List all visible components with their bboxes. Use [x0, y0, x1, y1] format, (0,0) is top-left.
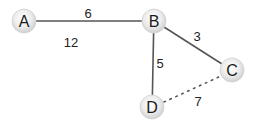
- node-b-label: B: [149, 13, 160, 30]
- weight-label-b-c: 3: [193, 29, 200, 44]
- weight-label-b-d: 5: [156, 56, 163, 71]
- edge-b-d: [152, 33, 153, 95]
- node-a-label: A: [19, 13, 30, 30]
- node-a: A: [12, 9, 36, 33]
- node-c: C: [220, 58, 244, 82]
- nodes: A B C D: [12, 9, 244, 119]
- node-d-label: D: [146, 99, 158, 116]
- node-d: D: [140, 95, 164, 119]
- weight-label-d-c: 7: [194, 94, 201, 109]
- edge-d-c: [164, 76, 221, 102]
- node-c-label: C: [226, 62, 238, 79]
- node-b: B: [142, 9, 166, 33]
- free-label-12: 12: [64, 35, 78, 50]
- weight-label-a-b: 6: [84, 6, 91, 21]
- graph-diagram: 6 3 5 7 12 A B C D: [0, 0, 260, 128]
